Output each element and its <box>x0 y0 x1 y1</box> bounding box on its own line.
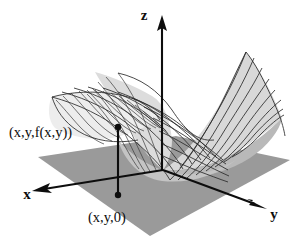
surface-plot-svg: x y z (x,y,f(x,y)) (x,y,0) <box>0 0 306 243</box>
plane-point-dot <box>115 192 121 198</box>
y-axis-arrowhead <box>247 199 267 209</box>
surface-point-label: (x,y,f(x,y)) <box>9 124 72 141</box>
surface-point-dot <box>115 124 121 130</box>
x-axis-label: x <box>23 186 31 202</box>
y-axis-label: y <box>270 206 278 222</box>
z-axis-label: z <box>141 7 148 23</box>
plane-point-label: (x,y,0) <box>88 209 126 226</box>
figure-container: x y z (x,y,f(x,y)) (x,y,0) <box>0 0 306 243</box>
